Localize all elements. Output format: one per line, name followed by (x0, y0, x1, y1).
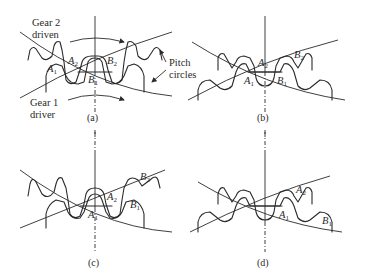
gear-meshing-figure: Gear 2 driven Gear 1 driver Pitch circle… (0, 0, 370, 280)
panel-a: Gear 2 driven Gear 1 driver Pitch circle… (20, 16, 196, 138)
svg-text:Gear 1: Gear 1 (30, 97, 58, 108)
svg-text:Gear 2: Gear 2 (32, 17, 60, 28)
point-label-b1: B1 (277, 75, 287, 88)
caption-c: (c) (88, 257, 99, 269)
pitch-circle-gear2 (192, 42, 345, 100)
gear2-label-line1: Gear 2 (32, 17, 60, 28)
panel-b: A2 B2 A1 B1 (b) (188, 16, 345, 138)
gear2-rotation-arrow (70, 38, 124, 42)
gear1-label-line1: Gear 1 (30, 97, 58, 108)
pitch-circle-gear1 (20, 32, 172, 98)
point-label-b1: B1 (322, 215, 332, 228)
point-label-b2: B2 (140, 171, 150, 184)
pitch-circle-gear1 (188, 40, 338, 100)
panel-d: A2 A1 B1 (d) (190, 132, 342, 269)
point-label-a2: A2 (67, 55, 78, 68)
caption-b: (b) (257, 112, 269, 124)
panel-c: B2 A2 B1 A1 (c) (20, 132, 172, 269)
point-label-a2: A2 (106, 191, 117, 204)
point-label-a1: A1 (87, 209, 98, 222)
point-label-a2: A2 (257, 57, 268, 70)
point-label-b1: B1 (88, 74, 98, 87)
point-label-a1: A1 (46, 63, 57, 76)
svg-text:circles: circles (169, 69, 196, 80)
pitch-circle-gear1 (190, 176, 330, 232)
caption-d: (d) (257, 257, 269, 269)
svg-text:driver: driver (30, 109, 56, 120)
point-label-a2: A2 (295, 184, 306, 197)
svg-text:driven: driven (32, 29, 60, 40)
gear2-label-line2: driven (32, 29, 60, 40)
point-label-b2: B2 (107, 55, 117, 68)
pitch-callout-arrow-lower (152, 70, 166, 82)
point-label-a1: A1 (243, 75, 254, 88)
pitch-label-line2: circles (169, 69, 196, 80)
svg-text:Pitch: Pitch (169, 57, 191, 68)
gear1-label-line2: driver (30, 109, 56, 120)
point-label-b1: B1 (130, 199, 140, 212)
pitch-label-line1: Pitch (169, 57, 191, 68)
gear1-rotation-arrow (68, 95, 124, 100)
caption-a: (a) (87, 112, 98, 124)
point-label-b2: B2 (294, 49, 304, 62)
